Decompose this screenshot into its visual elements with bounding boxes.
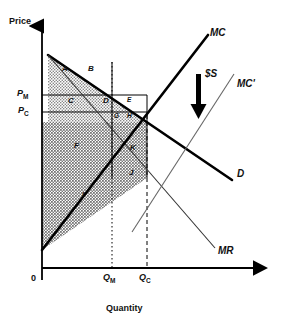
- quantity-tick-qm: QM: [103, 272, 115, 284]
- region-label-d: D: [103, 96, 109, 105]
- curve-label-mc: MC: [210, 27, 226, 38]
- origin-label: 0: [31, 273, 36, 283]
- price-tick-pc: PC: [18, 105, 29, 117]
- region-label-i: I: [82, 190, 84, 199]
- quantity-tick-qm-text: Q: [103, 272, 110, 282]
- region-label-c: C: [68, 96, 74, 105]
- x-axis-label: Quantity: [106, 303, 143, 313]
- quantity-tick-qc: QC: [139, 272, 151, 284]
- curve-label-mc-prime: MC': [237, 78, 255, 89]
- price-tick-pc-sub: C: [24, 110, 29, 117]
- price-tick-pm-sub: M: [23, 93, 28, 100]
- subsidy-arrow-icon: [191, 74, 207, 119]
- subsidy-label: $S: [205, 68, 217, 79]
- quantity-tick-qc-sub: C: [146, 277, 151, 284]
- quantity-tick-qc-text: Q: [139, 272, 146, 282]
- curve-label-mr: MR: [218, 245, 234, 256]
- curve-label-demand: D: [237, 168, 244, 179]
- region-label-g: G: [114, 112, 119, 119]
- price-tick-pm: PM: [17, 88, 28, 100]
- shaded-surplus-area: [42, 55, 147, 250]
- region-label-f: F: [74, 141, 79, 150]
- region-label-b: B: [88, 64, 94, 73]
- quantity-tick-qm-sub: M: [110, 277, 115, 284]
- region-label-e: E: [127, 96, 131, 103]
- region-label-h: H: [127, 112, 132, 119]
- y-axis-label: Price: [9, 16, 31, 26]
- region-label-j: J: [129, 168, 133, 177]
- region-label-a: A: [62, 64, 68, 73]
- economics-diagram: Price Quantity 0 PM PC QM QC MC MC' D MR…: [0, 0, 281, 324]
- region-label-k: K: [130, 143, 136, 152]
